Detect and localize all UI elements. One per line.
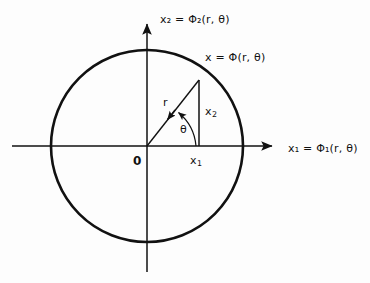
x2-label: x2 <box>205 106 217 117</box>
theta-label-text: θ <box>180 123 187 136</box>
x1-label: x1 <box>190 155 202 166</box>
diagram-canvas: x₂ = Φ₂(r, θ) x₁ = Φ₁(r, θ) x = Φ(r, θ) … <box>0 0 370 283</box>
y-axis-label: x₂ = Φ₂(r, θ) <box>160 14 230 25</box>
x-axis-label: x₁ = Φ₁(r, θ) <box>288 143 358 154</box>
radius-direction-arrow <box>168 110 176 120</box>
radius-label: r <box>163 97 168 108</box>
x-axis-label-text: x₁ = Φ₁(r, θ) <box>288 142 358 155</box>
radius-label-text: r <box>163 96 168 109</box>
origin-label: 0 <box>133 155 141 167</box>
theta-label: θ <box>180 124 187 135</box>
x1-label-base: x <box>190 154 197 167</box>
point-label-base: x <box>205 51 212 64</box>
x2-label-sub: 2 <box>212 110 218 119</box>
x2-label-base: x <box>205 105 212 118</box>
y-axis-label-text: x₂ = Φ₂(r, θ) <box>160 13 230 26</box>
origin-label-text: 0 <box>133 154 141 168</box>
x1-label-sub: 1 <box>197 159 203 168</box>
point-label: x = Φ(r, θ) <box>205 52 265 63</box>
point-label-rest: = Φ(r, θ) <box>212 51 266 64</box>
